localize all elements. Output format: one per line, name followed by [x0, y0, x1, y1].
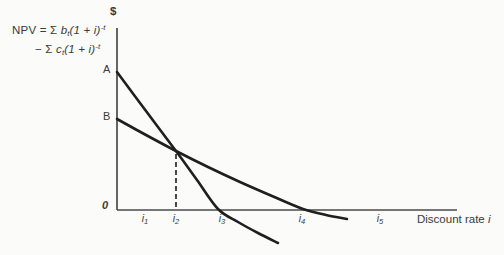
formula-exponent-2: -t — [95, 42, 100, 51]
formula-minus-sigma: − Σ — [35, 43, 56, 55]
formula-line-2: − Σ ct(1 + i)-t — [35, 40, 106, 59]
tick-i3-sub: 3 — [221, 217, 225, 226]
tick-i4-sub: 4 — [301, 217, 305, 226]
tick-i1: i1 — [142, 212, 149, 226]
tick-i5-sub: 5 — [379, 217, 383, 226]
tick-i2-sub: 2 — [175, 217, 179, 226]
x-axis-label: Discount rate i — [417, 213, 491, 225]
formula-exponent: -t — [101, 23, 106, 32]
curve-b-intercept-label: B — [103, 110, 110, 122]
curve-b — [117, 119, 347, 219]
tick-i2: i2 — [173, 212, 180, 226]
tick-i4: i4 — [299, 212, 306, 226]
x-axis-label-text: Discount rate — [417, 213, 485, 225]
tick-i1-sub: 1 — [144, 217, 148, 226]
formula-line-1: NPV = Σ bt(1 + i)-t — [12, 21, 106, 40]
y-axis-label: $ — [110, 5, 116, 17]
origin-label: 0 — [102, 199, 108, 211]
npv-discount-rate-diagram: NPV = Σ bt(1 + i)-t − Σ ct(1 + i)-t $ A … — [0, 0, 504, 255]
formula-lhs: NPV = Σ — [12, 24, 61, 36]
x-axis-label-var: i — [488, 213, 491, 225]
curve-a-intercept-label: A — [103, 63, 110, 75]
tick-i3: i3 — [219, 212, 226, 226]
npv-formula: NPV = Σ bt(1 + i)-t − Σ ct(1 + i)-t — [12, 21, 106, 59]
formula-discount-factor-2: (1 + i) — [64, 43, 95, 55]
formula-discount-factor: (1 + i) — [70, 24, 101, 36]
tick-i5: i5 — [377, 212, 384, 226]
